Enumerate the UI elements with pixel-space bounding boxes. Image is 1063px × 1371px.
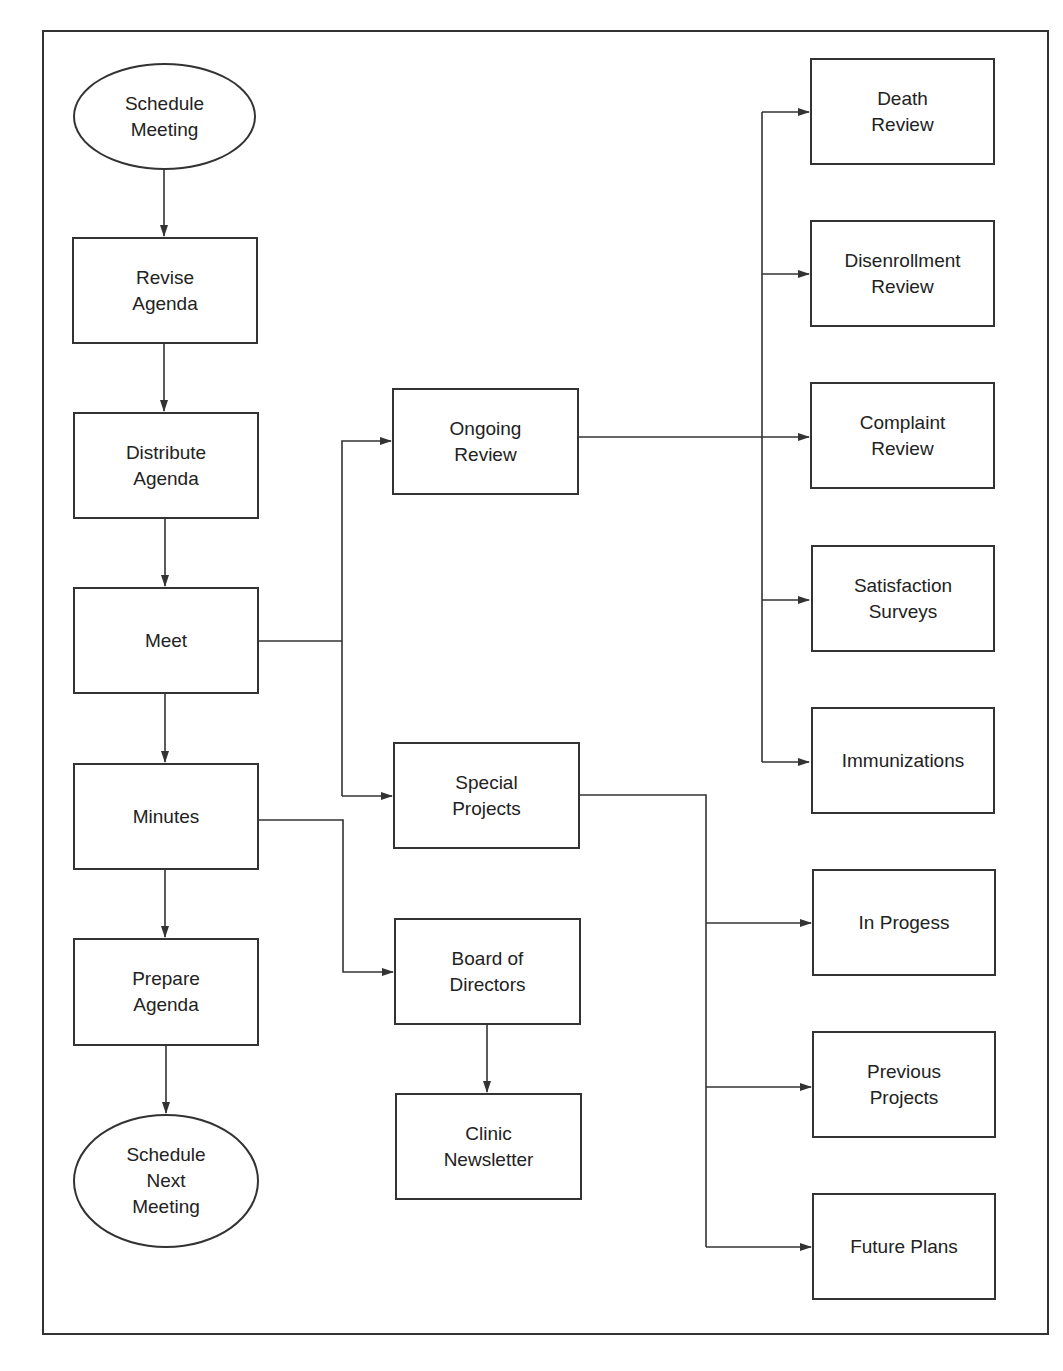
node-satisfaction-surveys: Satisfaction Surveys xyxy=(811,545,995,652)
node-schedule-meeting: Schedule Meeting xyxy=(73,63,256,170)
node-disenrollment-review: Disenrollment Review xyxy=(810,220,995,327)
node-label: Clinic Newsletter xyxy=(444,1121,534,1173)
node-label: Satisfaction Surveys xyxy=(854,573,952,625)
node-prepare-agenda: Prepare Agenda xyxy=(73,938,259,1046)
node-label: Schedule Meeting xyxy=(125,91,204,143)
node-label: Complaint Review xyxy=(860,410,946,462)
node-clinic-newsletter: Clinic Newsletter xyxy=(395,1093,582,1200)
node-distribute-agenda: Distribute Agenda xyxy=(73,412,259,519)
node-in-progess: In Progess xyxy=(812,869,996,976)
node-label: Distribute Agenda xyxy=(126,440,206,492)
node-previous-projects: Previous Projects xyxy=(812,1031,996,1138)
node-label: Special Projects xyxy=(452,770,521,822)
node-special-projects: Special Projects xyxy=(393,742,580,849)
node-label: Meet xyxy=(145,628,187,654)
node-label: Board of Directors xyxy=(449,946,525,998)
node-label: Previous Projects xyxy=(867,1059,941,1111)
node-label: Disenrollment Review xyxy=(844,248,960,300)
node-ongoing-review: Ongoing Review xyxy=(392,388,579,495)
node-label: Immunizations xyxy=(842,748,965,774)
node-label: Minutes xyxy=(133,804,200,830)
node-label: Prepare Agenda xyxy=(132,966,200,1018)
node-label: Future Plans xyxy=(850,1234,958,1260)
node-label: Schedule Next Meeting xyxy=(126,1142,205,1220)
node-minutes: Minutes xyxy=(73,763,259,870)
node-label: Death Review xyxy=(871,86,933,138)
node-death-review: Death Review xyxy=(810,58,995,165)
node-complaint-review: Complaint Review xyxy=(810,382,995,489)
node-schedule-next-meeting: Schedule Next Meeting xyxy=(73,1114,259,1248)
node-board-of-directors: Board of Directors xyxy=(394,918,581,1025)
node-label: Ongoing Review xyxy=(450,416,522,468)
node-immunizations: Immunizations xyxy=(811,707,995,814)
node-meet: Meet xyxy=(73,587,259,694)
node-future-plans: Future Plans xyxy=(812,1193,996,1300)
node-revise-agenda: Revise Agenda xyxy=(72,237,258,344)
node-label: In Progess xyxy=(859,910,950,936)
node-label: Revise Agenda xyxy=(132,265,198,317)
